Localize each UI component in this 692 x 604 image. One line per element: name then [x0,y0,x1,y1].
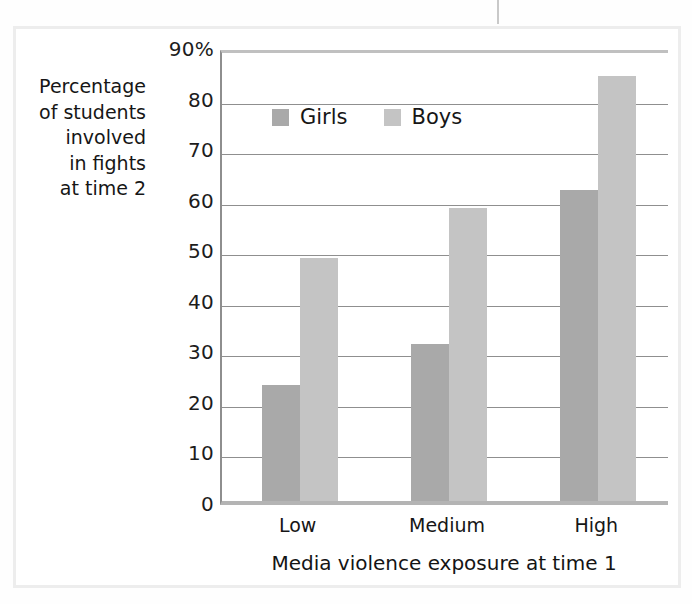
legend-swatch-boys-icon [384,109,401,126]
bar-boys-medium [449,208,487,501]
legend-swatch-girls-icon [272,109,289,126]
y-axis-title-line-5: at time 2 [18,176,146,202]
y-axis-tick-0: 0 [148,494,214,514]
bar-chart: Percentage of students involved in fight… [0,0,692,604]
y-axis-tick-10: 10 [148,443,214,463]
y-axis-title-line-3: involved [18,125,146,151]
x-axis-tick-medium: Medium [409,514,485,536]
legend-label-boys: Boys [412,107,463,128]
bar-boys-high [598,76,636,501]
x-axis-tick-low: Low [279,514,316,536]
y-axis-title-line-2: of students [18,100,146,126]
x-axis-title: Media violence exposure at time 1 [220,551,668,575]
bar-girls-medium [411,344,449,501]
y-axis-tick-50: 50 [148,241,214,261]
y-axis-tick-80: 80 [148,90,214,110]
x-axis-tick-labels: LowMediumHigh [220,514,668,540]
bar-boys-low [300,258,338,501]
y-axis-title: Percentage of students involved in fight… [18,74,146,202]
y-axis-tick-90: 90% [148,39,214,59]
legend: Girls Boys [272,107,462,128]
legend-label-girls: Girls [300,107,348,128]
bar-girls-low [262,385,300,501]
y-axis-tick-30: 30 [148,342,214,362]
legend-entry-boys: Boys [384,107,463,128]
y-axis-title-line-4: in fights [18,151,146,177]
y-axis-title-line-1: Percentage [18,74,146,100]
y-axis-tick-40: 40 [148,292,214,312]
legend-entry-girls: Girls [272,107,348,128]
x-axis-tick-high: High [574,514,618,536]
y-axis-tick-20: 20 [148,393,214,413]
y-axis-tick-70: 70 [148,140,214,160]
y-axis-tick-labels: 0102030405060708090% [146,0,214,604]
y-axis-tick-60: 60 [148,191,214,211]
bar-girls-high [560,190,598,501]
plot-area: Girls Boys [220,50,668,505]
